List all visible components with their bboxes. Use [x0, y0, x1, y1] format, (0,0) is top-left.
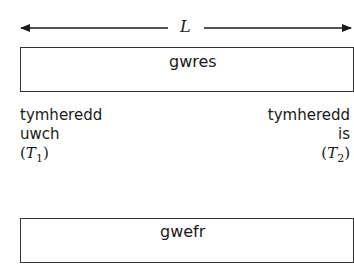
left-end-symbol: (T1) [20, 144, 102, 168]
heat-flow-label: gwres [169, 53, 217, 71]
left-end-label: tymheredd uwch (T1) [20, 106, 102, 168]
right-end-line2: is [268, 125, 350, 144]
left-end-line1: tymheredd [20, 106, 102, 125]
left-end-line2: uwch [20, 125, 102, 144]
right-end-label: tymheredd is (T2) [268, 106, 350, 168]
length-label: L [180, 18, 191, 36]
right-end-symbol: (T2) [268, 144, 350, 168]
current-flow-label: gwefr [160, 223, 205, 241]
right-end-line1: tymheredd [268, 106, 350, 125]
